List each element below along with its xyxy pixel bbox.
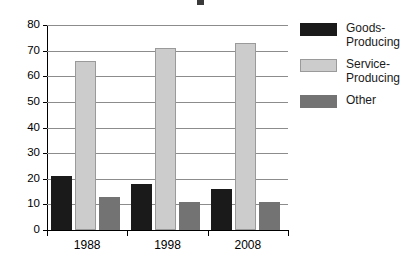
x-tick-mark-0 xyxy=(47,231,48,236)
y-tick-label-10: 10 xyxy=(0,198,40,209)
x-tick-label-1988: 1988 xyxy=(57,238,117,252)
y-tick-label-40: 40 xyxy=(0,122,40,133)
y-tick-label-30: 30 xyxy=(0,147,40,158)
bar-2008-other xyxy=(259,202,280,230)
bar-1988-other xyxy=(99,197,120,230)
legend-label-other: Other xyxy=(346,94,376,108)
legend-item-service[interactable]: Service- Producing xyxy=(300,58,409,85)
legend-label-goods: Goods- Producing xyxy=(346,22,400,49)
bar-1998-service-producing xyxy=(155,48,176,230)
x-tick-label-2008: 2008 xyxy=(218,238,278,252)
legend-item-other[interactable]: Other xyxy=(300,94,409,108)
bar-1988-goods-producing xyxy=(51,176,72,230)
y-tick-label-0: 0 xyxy=(0,224,40,235)
legend-swatch-other-icon xyxy=(300,95,337,108)
gridline-80 xyxy=(47,25,288,26)
y-tick-label-60: 60 xyxy=(0,70,40,81)
bar-chart: 01020304050607080 198819982008 Goods- Pr… xyxy=(0,0,409,263)
x-tick-mark-1 xyxy=(127,231,128,236)
bar-2008-goods-producing xyxy=(211,189,232,230)
y-tick-label-20: 20 xyxy=(0,173,40,184)
chart-legend: Goods- ProducingService- ProducingOther xyxy=(300,22,409,117)
y-tick-label-80: 80 xyxy=(0,19,40,30)
legend-label-service: Service- Producing xyxy=(346,58,400,85)
x-tick-mark-3 xyxy=(288,231,289,236)
y-tick-label-70: 70 xyxy=(0,45,40,56)
x-tick-mark-2 xyxy=(208,231,209,236)
bar-1988-service-producing xyxy=(75,61,96,230)
legend-swatch-service-icon xyxy=(300,59,337,72)
bar-1998-goods-producing xyxy=(131,184,152,230)
gridline-0 xyxy=(47,230,288,231)
legend-item-goods[interactable]: Goods- Producing xyxy=(300,22,409,49)
plot-area xyxy=(47,25,288,230)
cropped-title-remnant xyxy=(197,0,204,5)
y-tick-label-50: 50 xyxy=(0,96,40,107)
bar-1998-other xyxy=(179,202,200,230)
x-tick-label-1998: 1998 xyxy=(138,238,198,252)
legend-swatch-goods-icon xyxy=(300,23,337,36)
bar-2008-service-producing xyxy=(235,43,256,230)
